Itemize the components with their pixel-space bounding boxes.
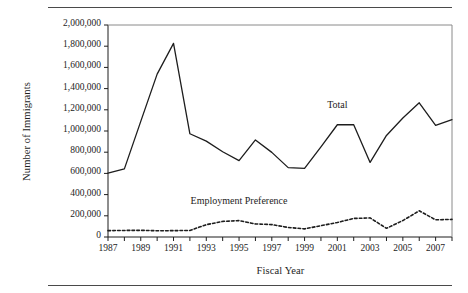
series-line-total [108, 43, 452, 173]
data-series-group [108, 43, 452, 230]
plot-area [0, 0, 468, 293]
y-tick-marks [104, 25, 108, 237]
series-line-employment-preference [108, 211, 452, 231]
x-tick-marks [108, 237, 452, 241]
figure-container: Number of Immigrants Fiscal Year 0200,00… [0, 0, 468, 293]
axis-frame [108, 25, 452, 237]
